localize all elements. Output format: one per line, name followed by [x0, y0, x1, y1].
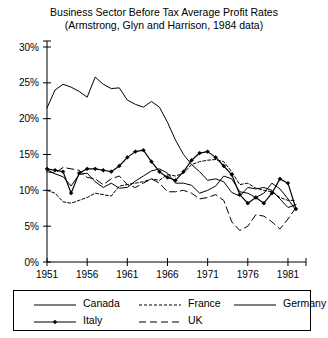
legend-item-germany[interactable]: Germany: [232, 296, 326, 310]
x-tick-label: 1966: [156, 269, 179, 280]
legend-label: UK: [188, 314, 203, 326]
chart-title: Business Sector Before Tax Average Profi…: [0, 6, 328, 19]
legend-swatch-italy: [32, 314, 78, 326]
series-marker-italy: [69, 191, 73, 195]
y-tick-label: 30%: [19, 42, 39, 53]
x-tick-label: 1971: [197, 269, 220, 280]
chart-legend: CanadaFranceGermanyItalyUK: [13, 290, 311, 331]
y-tick-label: 15%: [19, 149, 39, 160]
legend-label: Italy: [83, 314, 102, 326]
legend-label: Germany: [283, 297, 326, 309]
legend-swatch-uk: [137, 314, 183, 326]
y-tick-label: 5%: [25, 221, 40, 232]
chart-container: Business Sector Before Tax Average Profi…: [0, 0, 328, 338]
legend-label: Canada: [83, 297, 120, 309]
series-line-italy: [47, 150, 296, 209]
x-tick-label: 1956: [76, 269, 99, 280]
series-marker-italy: [93, 167, 97, 171]
x-tick-label: 1951: [36, 269, 59, 280]
legend-label: France: [188, 297, 221, 309]
x-tick-label: 1976: [237, 269, 260, 280]
y-tick-label: 20%: [19, 113, 39, 124]
legend-swatch-germany: [232, 297, 278, 309]
legend-item-uk[interactable]: UK: [137, 313, 203, 327]
y-tick-label: 0%: [25, 257, 40, 268]
line-chart-svg: 0%5%10%15%20%25%30%195119561961196619711…: [0, 30, 328, 285]
y-tick-label: 10%: [19, 185, 39, 196]
y-tick-label: 25%: [19, 77, 39, 88]
plot-area: 0%5%10%15%20%25%30%195119561961196619711…: [0, 30, 328, 285]
legend-swatch-canada: [32, 297, 78, 309]
series-line-canada: [47, 169, 296, 211]
chart-title-block: Business Sector Before Tax Average Profi…: [0, 6, 328, 32]
series-line-france: [47, 160, 296, 204]
x-tick-label: 1961: [116, 269, 139, 280]
series-line-germany: [47, 77, 296, 207]
x-tick-label: 1981: [277, 269, 300, 280]
legend-swatch-france: [137, 297, 183, 309]
legend-item-france[interactable]: France: [137, 296, 221, 310]
series-marker-italy: [101, 168, 105, 172]
legend-item-canada[interactable]: Canada: [32, 296, 120, 310]
series-marker-italy: [61, 170, 65, 174]
legend-item-italy[interactable]: Italy: [32, 313, 102, 327]
series-marker-italy: [53, 168, 57, 172]
